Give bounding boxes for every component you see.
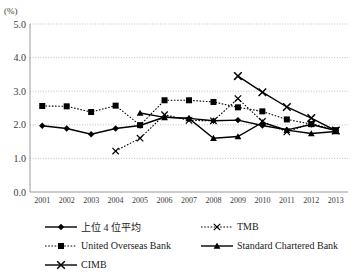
data-point-square — [137, 122, 143, 128]
data-point-diamond — [88, 131, 94, 137]
x-tick-label: 2001 — [34, 196, 50, 205]
data-point-x-solid — [234, 72, 242, 80]
x-tick-label: 2005 — [132, 196, 148, 205]
legend-item[interactable]: Standard Chartered Bank — [200, 237, 338, 254]
grid-lines — [30, 24, 348, 158]
legend-label: Standard Chartered Bank — [234, 240, 338, 251]
legend-label: 上位 4 位平均 — [78, 219, 141, 234]
x-tick-label: 2002 — [59, 196, 75, 205]
legend-item[interactable]: 上位 4 位平均 — [44, 218, 141, 235]
y-axis-tick-labels: 0.01.02.03.04.05.0 — [14, 19, 27, 198]
data-point-triangle — [137, 110, 144, 116]
data-point-x-solid — [259, 88, 267, 96]
legend-label: United Overseas Bank — [78, 240, 171, 251]
x-tick-label: 2010 — [254, 196, 270, 205]
data-point-square — [39, 103, 45, 109]
data-point-square — [64, 103, 70, 109]
data-point-square — [162, 97, 168, 103]
data-point-diamond — [63, 125, 69, 131]
data-point-x — [235, 95, 241, 101]
data-series-layer — [39, 72, 340, 154]
x-tick-label: 2004 — [108, 196, 124, 205]
axis-lines — [30, 24, 348, 192]
y-tick-label: 1.0 — [14, 153, 27, 164]
x-tick-label: 2013 — [328, 196, 344, 205]
legend-item[interactable]: TMB — [200, 218, 259, 235]
data-point-diamond — [112, 125, 118, 131]
data-point-diamond — [58, 223, 64, 229]
data-point-square — [284, 116, 290, 122]
x-tick-label: 2009 — [230, 196, 246, 205]
y-tick-label: 5.0 — [14, 19, 27, 30]
chart-legend: 上位 4 位平均TMBUnited Overseas BankStandard … — [0, 218, 356, 275]
y-tick-label: 0.0 — [14, 187, 27, 198]
data-point-square — [308, 121, 314, 127]
legend-label: TMB — [234, 221, 259, 232]
data-point-x — [137, 135, 143, 141]
x-tick-label: 2011 — [279, 196, 295, 205]
legend-swatch-x-solid-icon — [44, 259, 78, 271]
y-tick-label: 4.0 — [14, 52, 27, 63]
plot-area: 0.01.02.03.04.05.0 200120022003200420052… — [0, 0, 356, 218]
x-tick-label: 2012 — [303, 196, 319, 205]
data-point-diamond — [39, 123, 45, 129]
data-point-square — [113, 103, 119, 109]
y-tick-label: 3.0 — [14, 86, 27, 97]
data-point-diamond — [235, 117, 241, 123]
legend-swatch-x-icon — [200, 221, 234, 233]
x-axis-tick-labels: 2001200220032004200520062007200820092010… — [34, 196, 344, 205]
data-point-square — [58, 243, 64, 249]
legend-item[interactable]: CIMB — [44, 256, 107, 273]
legend-swatch-triangle-icon — [200, 240, 234, 252]
data-point-x — [112, 148, 118, 154]
data-point-square — [88, 109, 94, 115]
x-tick-label: 2008 — [205, 196, 221, 205]
series-4 — [234, 72, 339, 134]
data-point-x-solid — [283, 103, 291, 111]
y-tick-label: 2.0 — [14, 119, 27, 130]
data-point-square — [235, 104, 241, 110]
legend-item[interactable]: United Overseas Bank — [44, 237, 171, 254]
data-point-square — [259, 108, 265, 114]
data-point-square — [186, 97, 192, 103]
legend-swatch-square-icon — [44, 240, 78, 252]
data-point-x-solid — [308, 114, 316, 122]
line-chart-figure: (%) 0.01.02.03.04.05.0 20012002200320042… — [0, 0, 356, 275]
legend-swatch-diamond-icon — [44, 221, 78, 233]
legend-label: CIMB — [78, 259, 107, 270]
x-tick-label: 2003 — [83, 196, 99, 205]
x-tick-label: 2006 — [157, 196, 173, 205]
data-point-square — [210, 99, 216, 105]
x-tick-label: 2007 — [181, 196, 197, 205]
